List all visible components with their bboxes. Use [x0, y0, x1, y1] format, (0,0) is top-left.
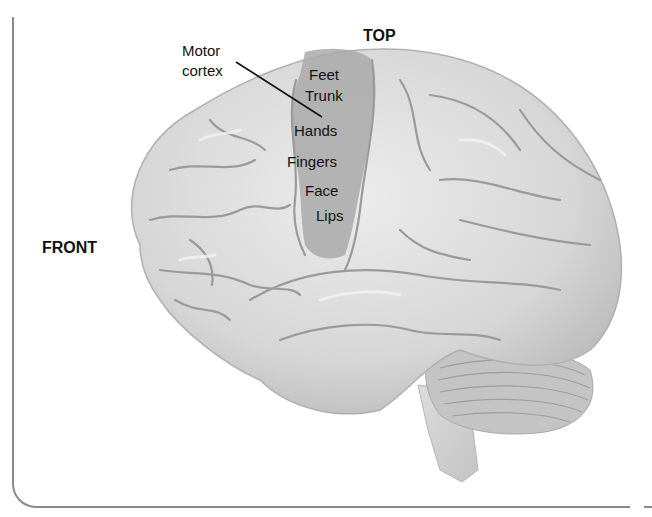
region-feet: Feet — [309, 66, 339, 83]
region-lips: Lips — [316, 207, 344, 224]
label-top: TOP — [363, 27, 396, 44]
region-hands: Hands — [294, 122, 337, 139]
region-trunk: Trunk — [305, 87, 343, 104]
callout-cortex: cortex — [182, 62, 223, 79]
region-fingers: Fingers — [287, 153, 337, 170]
cerebrum — [132, 49, 622, 414]
region-face: Face — [305, 182, 338, 199]
callout-motor: Motor — [182, 42, 220, 59]
label-front: FRONT — [42, 239, 97, 256]
